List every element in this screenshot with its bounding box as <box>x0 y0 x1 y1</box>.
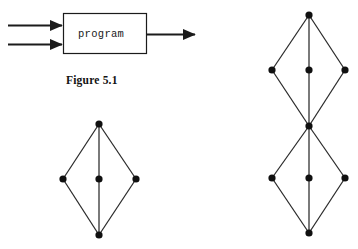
graph-edge <box>63 124 99 179</box>
graph-edge <box>63 179 99 235</box>
graph-node <box>305 174 312 181</box>
figure-caption: Figure 5.1 <box>66 74 118 86</box>
figure-page: program Figure 5.1 <box>0 0 358 249</box>
graph-edge <box>99 124 136 179</box>
graph-node <box>95 120 102 127</box>
graph-edge <box>309 178 345 233</box>
graph-edge <box>272 15 309 70</box>
graph-edge <box>309 15 345 70</box>
graph-node <box>59 175 66 182</box>
graph-edge <box>309 126 345 178</box>
graph-edge <box>99 179 136 235</box>
graph-edge <box>272 70 309 126</box>
single-diamond-graph <box>59 120 139 238</box>
graph-node <box>305 229 312 236</box>
graph-edge <box>272 126 309 178</box>
graph-node <box>305 66 312 73</box>
graph-node <box>95 231 102 238</box>
program-box-label: program <box>78 28 124 40</box>
figure-vector-layer <box>0 0 358 249</box>
graph-edge <box>309 70 345 126</box>
double-diamond-graph <box>268 11 348 236</box>
graph-node <box>132 175 139 182</box>
graph-node <box>95 175 102 182</box>
graph-node <box>341 174 348 181</box>
graph-node <box>268 66 275 73</box>
graph-node <box>268 174 275 181</box>
graph-node <box>305 11 312 18</box>
graph-node <box>341 66 348 73</box>
graph-edge <box>272 178 309 233</box>
graph-node <box>305 122 312 129</box>
